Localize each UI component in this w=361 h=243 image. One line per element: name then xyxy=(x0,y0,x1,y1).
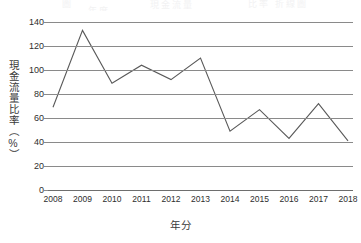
y-axis-tick-labels: 020406080100120140 xyxy=(18,22,44,190)
x-tick-label-2010: 2010 xyxy=(103,194,122,204)
y-tick-mark-60 xyxy=(44,118,48,119)
gridline-120 xyxy=(48,46,353,47)
y-tick-label-140: 140 xyxy=(18,17,44,27)
x-tick-label-2009: 2009 xyxy=(73,194,92,204)
y-tick-mark-0 xyxy=(44,190,48,191)
y-tick-label-60: 60 xyxy=(18,113,44,123)
x-tick-label-2018: 2018 xyxy=(339,194,358,204)
x-axis-tick-labels: 2008200920102011201220132014201520162017… xyxy=(48,193,353,207)
y-tick-mark-100 xyxy=(44,70,48,71)
y-axis-title: 現金流量比率（%） xyxy=(2,30,19,190)
x-tick-label-2013: 2013 xyxy=(191,194,210,204)
y-tick-mark-80 xyxy=(44,94,48,95)
gridline-60 xyxy=(48,118,353,119)
plot-area xyxy=(48,22,353,190)
x-tick-label-2014: 2014 xyxy=(221,194,240,204)
y-tick-mark-120 xyxy=(44,46,48,47)
x-tick-label-2017: 2017 xyxy=(309,194,328,204)
y-tick-label-20: 20 xyxy=(18,161,44,171)
y-tick-label-40: 40 xyxy=(18,137,44,147)
gridline-40 xyxy=(48,142,353,143)
gridline-20 xyxy=(48,166,353,167)
x-tick-label-2011: 2011 xyxy=(132,194,150,204)
y-tick-label-120: 120 xyxy=(18,41,44,51)
x-axis-title: 年分 xyxy=(0,217,361,232)
y-tick-label-100: 100 xyxy=(18,65,44,75)
y-tick-mark-140 xyxy=(44,22,48,23)
gridline-140 xyxy=(48,22,353,23)
gridline-100 xyxy=(48,70,353,71)
x-tick-label-2008: 2008 xyxy=(44,194,63,204)
clipped-title-strip: 圖 現金流量 比率 折線圖 年度 xyxy=(0,0,361,11)
clipped-title-fragment-3: 比率 折線圖 xyxy=(248,0,308,10)
clipped-title-fragment-4: 年度 xyxy=(88,4,110,11)
y-tick-label-80: 80 xyxy=(18,89,44,99)
data-line xyxy=(53,30,348,140)
x-tick-label-2016: 2016 xyxy=(280,194,299,204)
x-tick-label-2012: 2012 xyxy=(162,194,181,204)
y-tick-mark-40 xyxy=(44,142,48,143)
gridline-0 xyxy=(48,190,353,191)
y-tick-label-0: 0 xyxy=(18,185,44,195)
gridline-80 xyxy=(48,94,353,95)
y-tick-mark-20 xyxy=(44,166,48,167)
x-tick-label-2015: 2015 xyxy=(250,194,269,204)
clipped-title-fragment-2: 現金流量 xyxy=(150,0,194,11)
clipped-title-fragment-1: 圖 xyxy=(62,0,73,10)
line-chart: 圖 現金流量 比率 折線圖 年度 現金流量比率（%） 0204060801001… xyxy=(0,0,361,243)
